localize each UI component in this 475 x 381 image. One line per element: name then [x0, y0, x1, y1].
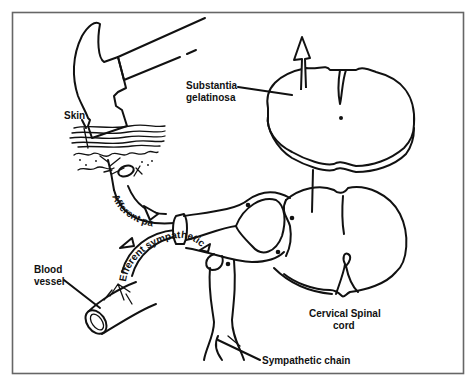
label-blood-2: vessel: [34, 276, 65, 287]
pain-pathway-diagram: Skin Substantia gelatinosa Blood vessel …: [0, 0, 475, 381]
label-substantia-2: gelatinosa: [186, 92, 236, 103]
label-blood-1: Blood: [34, 264, 62, 275]
label-skin: Skin: [64, 110, 85, 121]
label-sympathetic-chain: Sympathetic chain: [262, 355, 350, 366]
label-cervical-2: cord: [333, 320, 355, 331]
label-substantia-1: Substantia: [186, 80, 238, 91]
label-cervical-1: Cervical Spinal: [309, 308, 381, 319]
